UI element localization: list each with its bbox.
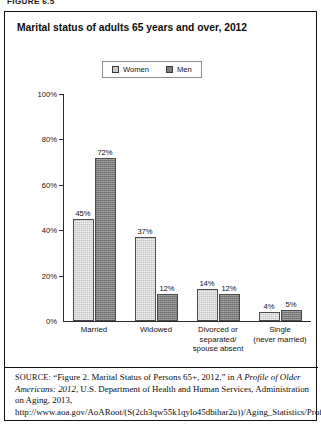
- x-axis-category-label: Single(never married): [249, 325, 311, 344]
- x-axis-category-label: Widowed: [125, 325, 187, 335]
- source-lead: SOURCE:: [15, 373, 51, 382]
- x-axis-category-label: Divorced orseparated/spouse absent: [187, 325, 249, 354]
- bar-group: 14%12%: [187, 94, 249, 321]
- y-axis-tick-label: 40%: [19, 226, 57, 235]
- bar-women: 14%: [197, 289, 218, 321]
- bar-women: 37%: [135, 237, 156, 321]
- y-axis-tick-label: 80%: [19, 135, 57, 144]
- bar-men: 12%: [219, 294, 240, 321]
- bar-value-label: 72%: [97, 148, 112, 157]
- bar-value-label: 37%: [137, 227, 152, 236]
- figure-frame: Marital status of adults 65 years and ov…: [4, 11, 317, 421]
- source-text-pre: “Figure 2. Marital Status of Persons 65+…: [51, 372, 237, 382]
- y-axis-tick-label: 100%: [19, 90, 57, 99]
- y-axis-tick-label: 0%: [19, 317, 57, 326]
- figure-number-label: FIGURE 6.5: [7, 0, 55, 6]
- bar-men: 5%: [281, 310, 302, 321]
- bar-men: 12%: [157, 294, 178, 321]
- x-axis-label-line: (never married): [249, 335, 311, 345]
- x-axis-label-line: spouse absent: [187, 344, 249, 354]
- source-divider: [5, 367, 318, 368]
- x-axis-label-line: Single: [249, 325, 311, 335]
- bar-group: 45%72%: [63, 94, 125, 321]
- x-axis-label-line: Married: [63, 325, 125, 335]
- bar-series-container: 45%72%37%12%14%12%4%5%: [63, 94, 311, 321]
- x-axis-label-line: Divorced or: [187, 325, 249, 335]
- x-axis-category-label: Married: [63, 325, 125, 335]
- y-axis-tick-label: 20%: [19, 272, 57, 281]
- source-note: SOURCE: “Figure 2. Marital Status of Per…: [15, 372, 311, 418]
- bar-women: 45%: [73, 219, 94, 321]
- bar-value-label: 5%: [286, 300, 297, 309]
- bar-value-label: 12%: [159, 284, 174, 293]
- bar-value-label: 12%: [221, 284, 236, 293]
- bar-group: 4%5%: [249, 94, 311, 321]
- bar-group: 37%12%: [125, 94, 187, 321]
- plot-area: 0%20%40%60%80%100% 45%72%37%12%14%12%4%5…: [5, 12, 318, 422]
- x-axis-label-line: separated/: [187, 335, 249, 345]
- bar-value-label: 4%: [264, 302, 275, 311]
- bar-value-label: 14%: [199, 279, 214, 288]
- figure-page: FIGURE 6.5 Marital status of adults 65 y…: [0, 0, 321, 425]
- y-axis-tick-label: 60%: [19, 181, 57, 190]
- x-axis-label-line: Widowed: [125, 325, 187, 335]
- bar-men: 72%: [95, 158, 116, 321]
- bar-women: 4%: [259, 312, 280, 321]
- bar-value-label: 45%: [75, 209, 90, 218]
- x-axis-labels: MarriedWidowedDivorced orseparated/spous…: [63, 325, 311, 373]
